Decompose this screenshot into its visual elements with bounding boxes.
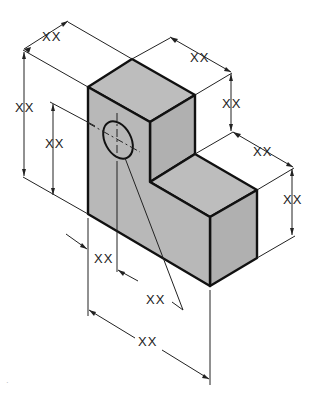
label-hole-height: XX	[45, 136, 64, 151]
label-step-height: XX	[222, 96, 241, 111]
stray-mark: ·	[6, 378, 9, 387]
label-top-depth: XX	[42, 29, 61, 44]
label-hole-diameter: XX	[146, 292, 165, 307]
label-lower-width: XX	[253, 144, 272, 159]
label-overall-height: XX	[15, 100, 34, 115]
part-body	[88, 59, 257, 286]
label-overall-length: XX	[138, 334, 157, 349]
isometric-drawing: XX XX XX XX XX XX XX XX XX XX ·	[0, 0, 314, 407]
label-lower-height: XX	[283, 192, 302, 207]
label-hole-offset: XX	[94, 251, 113, 266]
label-upper-width: XX	[190, 50, 209, 65]
